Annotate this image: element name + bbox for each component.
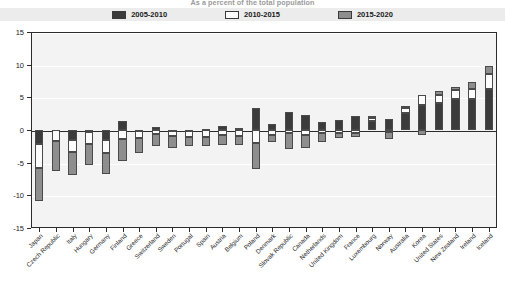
y-axis-tick xyxy=(27,65,31,66)
legend-item[interactable]: 2005-2010 xyxy=(112,10,167,19)
x-axis-labels: JapanCzech RepublicItalyHungaryGermanyFi… xyxy=(31,232,497,291)
plot-area xyxy=(31,32,497,228)
chart-legend: 2005-20102010-20152015-2020 xyxy=(0,8,505,21)
gridline xyxy=(32,66,496,67)
legend-swatch-icon xyxy=(338,11,352,19)
chart-container: As a percent of the total population 200… xyxy=(0,0,505,291)
legend-item-label: 2015-2020 xyxy=(357,10,393,19)
legend-swatch-icon xyxy=(112,11,126,19)
chart-title: As a percent of the total population xyxy=(0,0,505,7)
x-axis-category-text: Italy xyxy=(64,232,77,245)
y-axis: 151050-5-10-15 xyxy=(0,32,28,228)
y-axis-tick xyxy=(27,163,31,164)
y-axis-tick-label: -15 xyxy=(13,224,24,233)
y-axis-tick xyxy=(27,130,31,131)
gridline xyxy=(32,164,496,165)
legend-item[interactable]: 2010-2015 xyxy=(225,10,280,19)
gridline xyxy=(32,98,496,99)
y-axis-tick-label: 5 xyxy=(20,93,24,102)
y-axis-tick-label: 0 xyxy=(20,126,24,135)
y-axis-tick-label: 15 xyxy=(16,28,24,37)
zero-line xyxy=(32,131,496,132)
gridline xyxy=(32,33,496,34)
y-axis-tick-label: -10 xyxy=(13,191,24,200)
y-axis-tick-label: -5 xyxy=(17,158,24,167)
legend-swatch-icon xyxy=(225,11,239,19)
legend-item[interactable]: 2015-2020 xyxy=(338,10,393,19)
legend-item-label: 2005-2010 xyxy=(131,10,167,19)
gridline xyxy=(32,196,496,197)
y-axis-tick xyxy=(27,195,31,196)
y-axis-tick xyxy=(27,32,31,33)
y-axis-tick xyxy=(27,97,31,98)
y-axis-tick-label: 10 xyxy=(16,60,24,69)
legend-item-label: 2010-2015 xyxy=(244,10,280,19)
